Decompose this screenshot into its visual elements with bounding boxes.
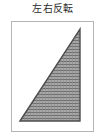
figure-container: 左右反転	[0, 0, 106, 139]
figure-caption: 左右反転	[0, 2, 106, 15]
right-triangle	[20, 29, 80, 121]
figure-border	[11, 21, 94, 132]
shape-canvas	[12, 22, 93, 131]
